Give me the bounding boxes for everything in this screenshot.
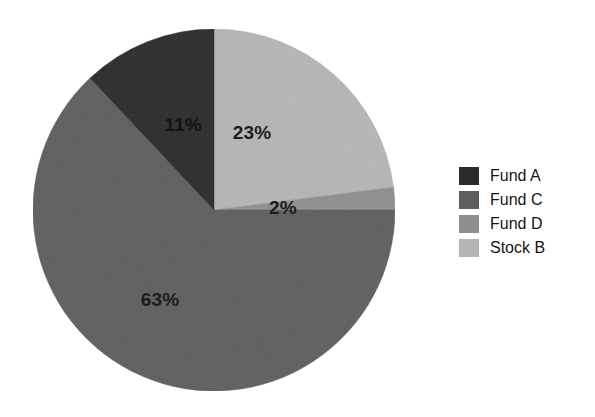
pie-slice-grain bbox=[214, 29, 394, 210]
chart-legend: Fund A Fund C Fund D Stock B bbox=[459, 165, 584, 261]
legend-item-fund-d[interactable]: Fund D bbox=[459, 213, 584, 235]
legend-label-fund-a: Fund A bbox=[490, 167, 541, 185]
legend-label-stock-b: Stock B bbox=[490, 239, 545, 257]
pie-chart-graphic: 23%2%63%11% bbox=[33, 29, 395, 391]
legend-swatch-icon-fund-a bbox=[459, 167, 479, 185]
legend-swatch-icon-fund-d bbox=[459, 215, 479, 233]
legend-label-fund-c: Fund C bbox=[490, 191, 542, 209]
pie-svg: 23%2%63%11% bbox=[33, 29, 395, 391]
pie-chart-figure: 23%2%63%11% Fund A Fund C Fund D Stock B bbox=[0, 0, 595, 417]
legend-swatch-icon-stock-b bbox=[459, 239, 479, 257]
pie-texture-overlay bbox=[33, 29, 395, 391]
legend-label-fund-d: Fund D bbox=[490, 215, 542, 233]
legend-item-fund-a[interactable]: Fund A bbox=[459, 165, 584, 187]
legend-swatch-icon-fund-c bbox=[459, 191, 479, 209]
legend-item-stock-b[interactable]: Stock B bbox=[459, 237, 584, 259]
legend-item-fund-c[interactable]: Fund C bbox=[459, 189, 584, 211]
